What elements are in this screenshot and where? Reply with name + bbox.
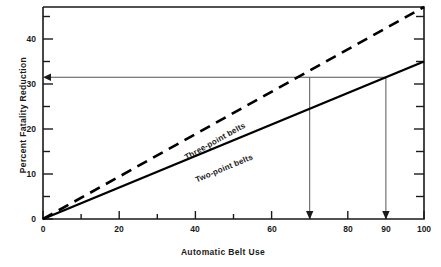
chart-figure: 0 10 20 30 40 0 20 40 60 80 90 100 Three… (0, 0, 441, 267)
x-tick-label-20: 20 (104, 224, 134, 234)
series-three-point-belts (43, 7, 424, 219)
two-point-belt-use-marker (382, 77, 389, 219)
y-tick-label-40: 40 (6, 34, 36, 44)
x-tick-label-90: 90 (371, 224, 401, 234)
y-axis-ticks (43, 17, 53, 220)
x-tick-label-40: 40 (180, 224, 210, 234)
y-axis-title: Percent Fatality Reduction (18, 45, 28, 185)
x-tick-label-80: 80 (333, 224, 363, 234)
x-tick-label-100: 100 (409, 224, 439, 234)
x-tick-label-0: 0 (28, 224, 58, 234)
y-tick-label-0: 0 (6, 214, 36, 224)
fatality-reduction-reference-line (43, 74, 386, 81)
three-point-belt-use-marker (306, 77, 313, 219)
series-two-point-belts (43, 62, 424, 220)
x-axis-ticks (43, 211, 424, 219)
right-axis-ticks (414, 17, 424, 197)
x-tick-label-60: 60 (257, 224, 287, 234)
x-axis-title: Automatic Belt Use (133, 247, 313, 257)
